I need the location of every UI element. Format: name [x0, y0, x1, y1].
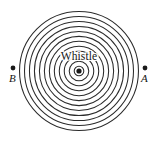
whistle-wavefront-figure: Whistle A B: [0, 0, 158, 143]
observer-a-label: A: [141, 73, 148, 84]
whistle-label: Whistle: [61, 51, 97, 63]
wavefront-diagram-canvas: [0, 0, 158, 143]
observer-b-dot: [11, 66, 16, 71]
observer-b-label: B: [9, 73, 16, 84]
observer-a-dot: [143, 66, 148, 71]
whistle-source-dot: [76, 68, 81, 73]
